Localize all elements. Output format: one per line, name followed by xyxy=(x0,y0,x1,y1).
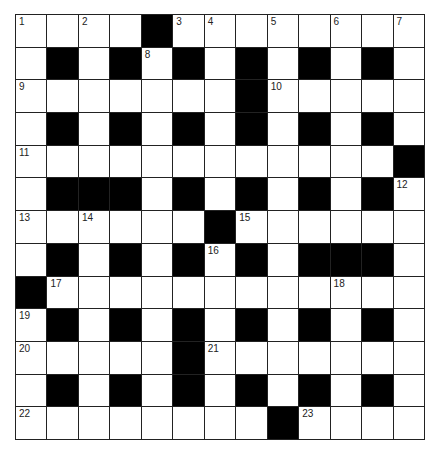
letter-cell[interactable] xyxy=(110,146,140,178)
letter-cell[interactable] xyxy=(110,407,140,439)
letter-cell[interactable] xyxy=(331,407,361,439)
letter-cell[interactable] xyxy=(173,407,203,439)
letter-cell[interactable] xyxy=(79,309,109,341)
letter-cell[interactable] xyxy=(47,342,77,374)
letter-cell[interactable] xyxy=(299,146,329,178)
letter-cell[interactable] xyxy=(236,15,266,47)
letter-cell[interactable] xyxy=(79,80,109,112)
letter-cell[interactable] xyxy=(331,113,361,145)
letter-cell[interactable] xyxy=(394,80,424,112)
letter-cell[interactable] xyxy=(268,342,298,374)
letter-cell[interactable] xyxy=(268,146,298,178)
letter-cell[interactable] xyxy=(236,342,266,374)
letter-cell[interactable] xyxy=(299,211,329,243)
letter-cell[interactable] xyxy=(110,277,140,309)
letter-cell[interactable] xyxy=(79,277,109,309)
letter-cell[interactable] xyxy=(142,80,172,112)
letter-cell[interactable] xyxy=(205,309,235,341)
letter-cell[interactable] xyxy=(47,80,77,112)
letter-cell[interactable] xyxy=(47,407,77,439)
letter-cell[interactable] xyxy=(110,342,140,374)
letter-cell[interactable] xyxy=(394,211,424,243)
letter-cell[interactable] xyxy=(236,146,266,178)
letter-cell[interactable] xyxy=(362,146,392,178)
letter-cell[interactable]: 3 xyxy=(173,15,203,47)
letter-cell[interactable] xyxy=(47,15,77,47)
letter-cell[interactable] xyxy=(394,375,424,407)
letter-cell[interactable] xyxy=(16,178,46,210)
letter-cell[interactable] xyxy=(236,407,266,439)
letter-cell[interactable]: 18 xyxy=(331,277,361,309)
letter-cell[interactable] xyxy=(394,277,424,309)
letter-cell[interactable] xyxy=(79,146,109,178)
letter-cell[interactable] xyxy=(236,277,266,309)
letter-cell[interactable] xyxy=(268,211,298,243)
letter-cell[interactable] xyxy=(79,407,109,439)
letter-cell[interactable] xyxy=(299,80,329,112)
letter-cell[interactable] xyxy=(205,407,235,439)
letter-cell[interactable] xyxy=(47,211,77,243)
letter-cell[interactable] xyxy=(47,146,77,178)
letter-cell[interactable] xyxy=(394,113,424,145)
letter-cell[interactable]: 15 xyxy=(236,211,266,243)
letter-cell[interactable] xyxy=(394,407,424,439)
letter-cell[interactable]: 22 xyxy=(16,407,46,439)
letter-cell[interactable] xyxy=(268,48,298,80)
letter-cell[interactable] xyxy=(362,342,392,374)
letter-cell[interactable] xyxy=(142,309,172,341)
letter-cell[interactable]: 13 xyxy=(16,211,46,243)
letter-cell[interactable] xyxy=(142,178,172,210)
letter-cell[interactable] xyxy=(331,342,361,374)
letter-cell[interactable] xyxy=(205,48,235,80)
letter-cell[interactable] xyxy=(331,48,361,80)
letter-cell[interactable]: 6 xyxy=(331,15,361,47)
letter-cell[interactable] xyxy=(205,113,235,145)
letter-cell[interactable] xyxy=(362,15,392,47)
letter-cell[interactable]: 23 xyxy=(299,407,329,439)
letter-cell[interactable] xyxy=(16,244,46,276)
letter-cell[interactable] xyxy=(268,244,298,276)
letter-cell[interactable]: 8 xyxy=(142,48,172,80)
letter-cell[interactable] xyxy=(110,15,140,47)
letter-cell[interactable]: 7 xyxy=(394,15,424,47)
letter-cell[interactable] xyxy=(110,211,140,243)
letter-cell[interactable] xyxy=(142,375,172,407)
letter-cell[interactable]: 21 xyxy=(205,342,235,374)
letter-cell[interactable] xyxy=(16,113,46,145)
letter-cell[interactable]: 19 xyxy=(16,309,46,341)
letter-cell[interactable] xyxy=(142,146,172,178)
letter-cell[interactable] xyxy=(173,80,203,112)
letter-cell[interactable] xyxy=(142,113,172,145)
letter-cell[interactable] xyxy=(173,146,203,178)
letter-cell[interactable]: 17 xyxy=(47,277,77,309)
letter-cell[interactable] xyxy=(268,309,298,341)
letter-cell[interactable] xyxy=(16,375,46,407)
letter-cell[interactable] xyxy=(331,146,361,178)
letter-cell[interactable] xyxy=(394,48,424,80)
letter-cell[interactable] xyxy=(331,309,361,341)
letter-cell[interactable] xyxy=(362,211,392,243)
letter-cell[interactable] xyxy=(299,342,329,374)
letter-cell[interactable] xyxy=(110,80,140,112)
letter-cell[interactable] xyxy=(79,375,109,407)
letter-cell[interactable] xyxy=(299,277,329,309)
letter-cell[interactable] xyxy=(299,15,329,47)
letter-cell[interactable] xyxy=(79,48,109,80)
letter-cell[interactable]: 14 xyxy=(79,211,109,243)
letter-cell[interactable]: 12 xyxy=(394,178,424,210)
letter-cell[interactable]: 4 xyxy=(205,15,235,47)
letter-cell[interactable]: 10 xyxy=(268,80,298,112)
letter-cell[interactable] xyxy=(79,244,109,276)
letter-cell[interactable] xyxy=(331,211,361,243)
letter-cell[interactable] xyxy=(142,342,172,374)
letter-cell[interactable] xyxy=(142,277,172,309)
letter-cell[interactable] xyxy=(142,244,172,276)
letter-cell[interactable] xyxy=(394,309,424,341)
letter-cell[interactable] xyxy=(268,113,298,145)
letter-cell[interactable] xyxy=(362,407,392,439)
letter-cell[interactable] xyxy=(205,146,235,178)
letter-cell[interactable] xyxy=(79,113,109,145)
letter-cell[interactable] xyxy=(331,375,361,407)
letter-cell[interactable]: 9 xyxy=(16,80,46,112)
letter-cell[interactable] xyxy=(362,80,392,112)
